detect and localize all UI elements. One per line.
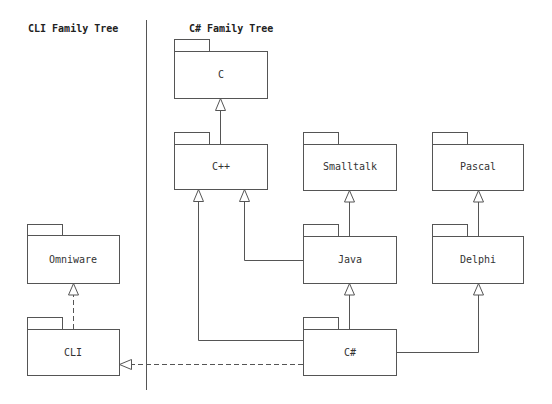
package-tab	[433, 225, 468, 237]
arrowhead-icon	[240, 190, 250, 202]
edges	[74, 110, 479, 365]
package-tab	[433, 133, 468, 145]
package-tab	[28, 318, 63, 330]
package-label: C#	[344, 347, 356, 358]
package-label: Pascal	[460, 161, 496, 172]
arrowhead-icon	[345, 191, 355, 203]
arrowhead-icon	[474, 191, 484, 203]
package-label: Smalltalk	[323, 161, 377, 172]
package-tab	[304, 318, 339, 330]
arrowhead-icon	[216, 99, 226, 111]
package-omniware[interactable]: Omniware	[28, 225, 120, 284]
edge-csharp-to-delphi	[396, 294, 479, 353]
package-label: Omniware	[49, 254, 97, 265]
arrowhead-icon	[69, 284, 79, 296]
package-label: C++	[212, 161, 230, 172]
csharp-section-title: C# Family Tree	[189, 23, 273, 34]
arrowhead-icon	[194, 190, 204, 202]
package-label: Delphi	[460, 254, 496, 265]
arrowhead-icon	[120, 360, 132, 370]
package-tab	[175, 40, 210, 52]
package-label: C	[218, 69, 224, 80]
package-tab	[28, 225, 63, 236]
package-smalltalk[interactable]: Smalltalk	[304, 133, 397, 191]
package-tab	[304, 225, 339, 237]
package-tab	[304, 133, 339, 145]
family-tree-diagram: CLI Family Tree C# Family Tree	[0, 0, 552, 404]
package-c[interactable]: C	[175, 40, 268, 99]
edge-java-to-cpp	[245, 201, 304, 261]
package-label: Java	[338, 254, 362, 265]
package-label: CLI	[64, 347, 82, 358]
arrowhead-icon	[345, 284, 355, 296]
arrowheads	[69, 99, 484, 370]
edge-csharp-to-cpp	[199, 201, 304, 341]
package-tab	[175, 133, 210, 145]
arrowhead-icon	[474, 284, 484, 296]
cli-section-title: CLI Family Tree	[28, 23, 118, 34]
package-pascal[interactable]: Pascal	[433, 133, 524, 191]
